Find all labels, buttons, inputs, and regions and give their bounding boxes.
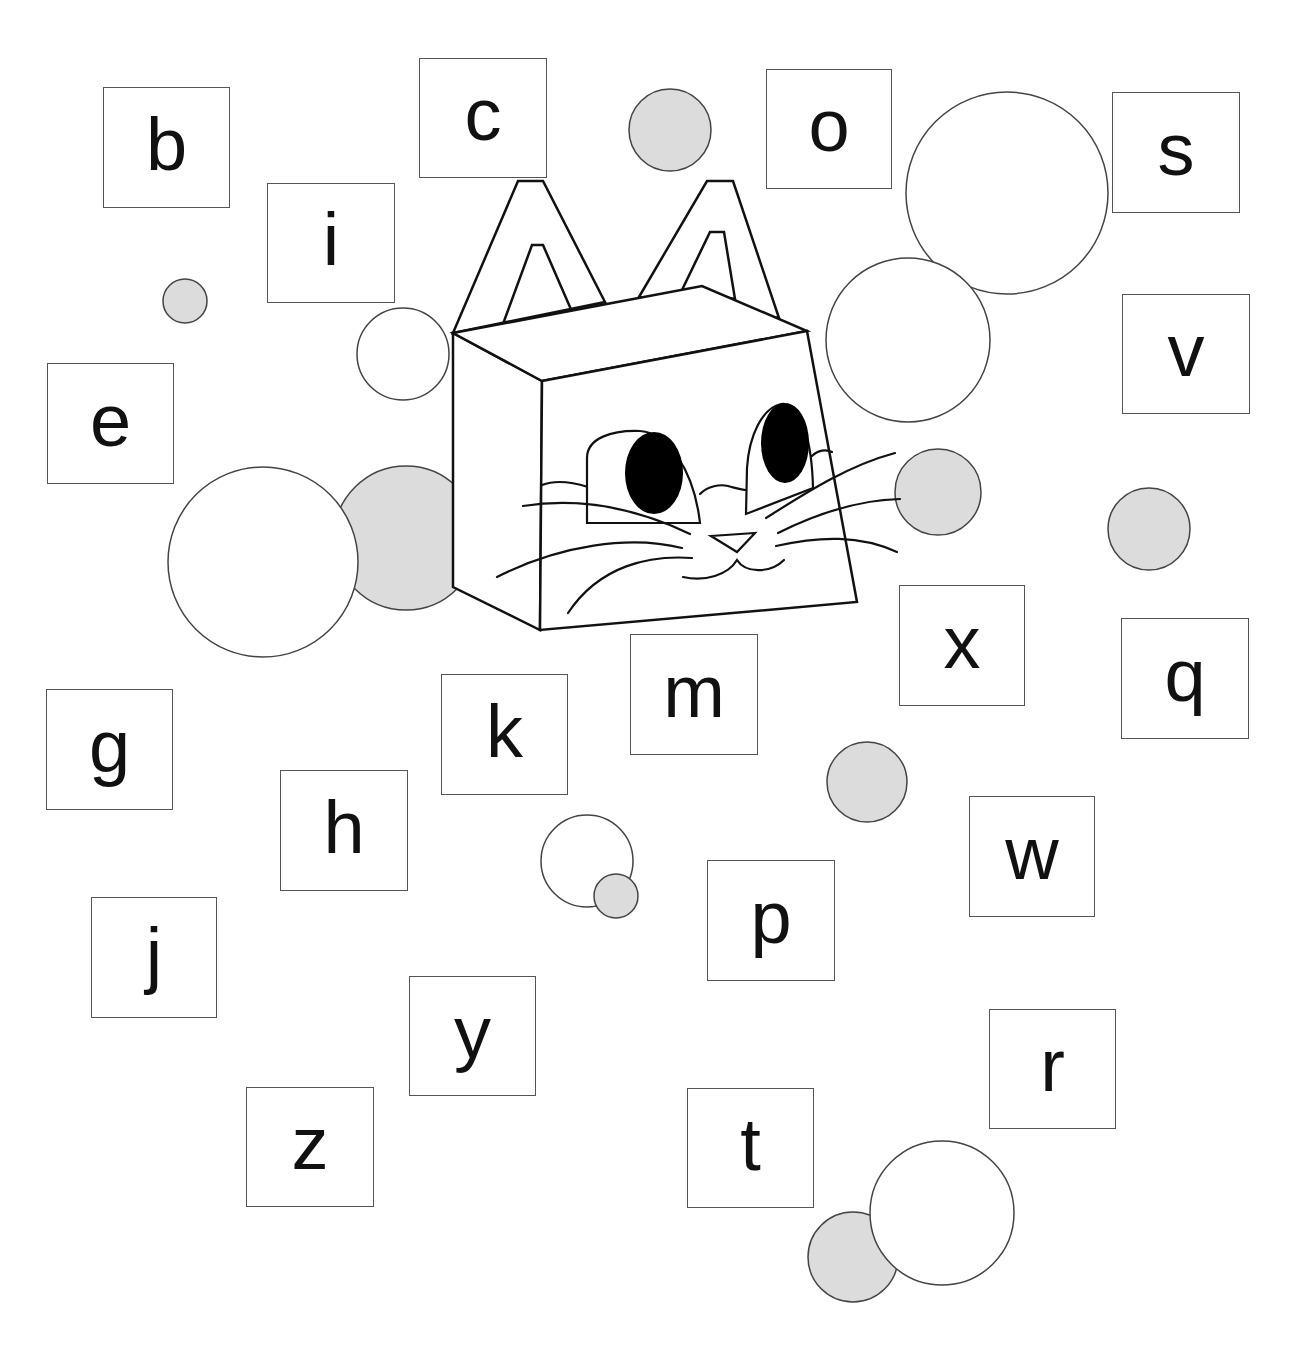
activity-sheet-canvas: bcosivexqmgkhwpjyrzt (0, 0, 1293, 1359)
letter-label: y (454, 996, 491, 1070)
letter-box-i[interactable]: i (267, 183, 395, 303)
left-pupil (625, 432, 683, 514)
letter-box-v[interactable]: v (1122, 294, 1250, 414)
letter-label: b (146, 108, 187, 182)
mouth (683, 560, 784, 579)
letter-box-x[interactable]: x (899, 585, 1025, 706)
letter-label: g (89, 710, 130, 784)
letter-box-k[interactable]: k (441, 674, 568, 795)
letter-box-q[interactable]: q (1121, 618, 1249, 739)
letter-box-t[interactable]: t (687, 1088, 814, 1208)
right-pupil (761, 403, 809, 483)
letter-box-h[interactable]: h (280, 770, 408, 891)
letter-box-e[interactable]: e (47, 363, 174, 484)
left-whisker-3 (568, 558, 692, 613)
letter-label: q (1164, 639, 1205, 713)
letter-box-s[interactable]: s (1112, 92, 1240, 213)
letter-label: x (944, 606, 981, 680)
letter-label: c (465, 78, 502, 152)
letter-label: j (146, 918, 162, 992)
nose (711, 533, 755, 552)
letter-box-z[interactable]: z (246, 1087, 374, 1207)
letter-box-b[interactable]: b (103, 87, 230, 208)
letter-box-y[interactable]: y (409, 976, 536, 1096)
letter-box-j[interactable]: j (91, 897, 217, 1018)
letter-label: w (1005, 817, 1058, 891)
letter-label: v (1168, 314, 1205, 388)
whiskers (497, 453, 900, 613)
letter-box-w[interactable]: w (969, 796, 1095, 917)
letter-label: m (663, 655, 725, 729)
right-whisker-3 (776, 539, 897, 552)
letter-label: e (90, 384, 131, 458)
letter-box-g[interactable]: g (46, 689, 173, 810)
letter-label: h (323, 791, 364, 865)
right-whisker-top (812, 450, 832, 456)
letter-box-o[interactable]: o (766, 69, 892, 189)
letter-label: p (750, 881, 791, 955)
letter-label: r (1040, 1029, 1065, 1103)
letter-box-m[interactable]: m (630, 634, 758, 755)
letter-label: t (740, 1108, 761, 1182)
letter-label: i (323, 203, 339, 277)
letter-label: s (1158, 113, 1195, 187)
letter-label: z (292, 1107, 329, 1181)
letter-box-c[interactable]: c (419, 58, 547, 178)
brow-bump (700, 485, 746, 494)
letter-label: k (486, 695, 523, 769)
letter-box-r[interactable]: r (989, 1009, 1116, 1129)
right-whisker-2 (778, 499, 900, 533)
letter-label: o (808, 89, 849, 163)
left-whisker-top (542, 482, 588, 487)
letter-box-p[interactable]: p (707, 860, 835, 981)
